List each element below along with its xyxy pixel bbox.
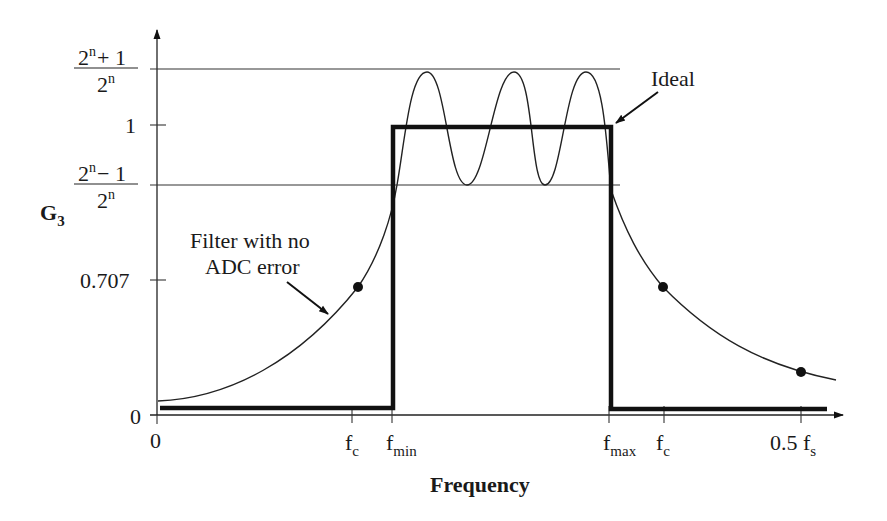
y-label-zero: 0 <box>130 404 141 429</box>
filter-annotation-line1: Filter with no <box>190 228 310 253</box>
axes <box>150 30 843 415</box>
x-axis-title: Frequency <box>430 472 530 497</box>
y-label-upper-num: 2n+ 1 <box>78 44 126 70</box>
y-label-lower-num: 2n− 1 <box>78 160 126 186</box>
x-label-half-fs: 0.5 fs <box>770 430 816 459</box>
ideal-annotation-label: Ideal <box>651 66 695 91</box>
marked-points <box>353 282 806 377</box>
half-fs-point <box>796 367 806 377</box>
ideal-annotation-arrow <box>616 92 658 123</box>
x-label-zero: 0 <box>150 428 161 453</box>
fc-left-point <box>353 282 363 292</box>
x-label-fmax: fmax <box>603 430 637 459</box>
x-label-fc-left: fc <box>345 430 359 459</box>
fc-right-point <box>658 282 668 292</box>
y-label-707: 0.707 <box>80 268 130 293</box>
x-label-fmin: fmin <box>386 430 417 459</box>
band-pass-response-diagram: 2n+ 1 2n 1 2n− 1 2n 0.707 0 G3 0 fc fmin… <box>0 0 887 521</box>
filter-annotation-arrow <box>287 282 328 314</box>
y-label-upper-den: 2n <box>97 71 115 97</box>
x-label-fc-right: fc <box>656 430 670 459</box>
y-label-one: 1 <box>125 113 136 138</box>
filter-annotation-line2: ADC error <box>205 254 300 279</box>
y-axis-title: G3 <box>40 200 65 229</box>
x-tick-labels: 0 fc fmin fmax fc 0.5 fs <box>150 428 816 459</box>
y-label-lower-den: 2n <box>97 187 115 213</box>
y-tick-labels: 2n+ 1 2n 1 2n− 1 2n 0.707 0 <box>74 44 141 429</box>
